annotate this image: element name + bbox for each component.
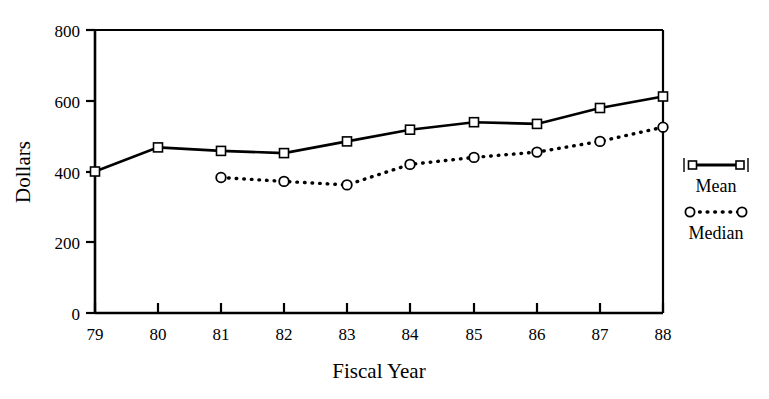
x-axis-ticks: [95, 303, 663, 313]
x-axis-tick-labels: 79 80 81 82 83 84 85 86 87 88: [87, 325, 672, 344]
median-point-marker: [658, 122, 668, 132]
y-tick-label: 800: [55, 22, 81, 41]
y-tick-label: 0: [72, 305, 81, 324]
mean-point-marker: [533, 119, 542, 128]
x-tick-label: 82: [276, 325, 293, 344]
median-point-marker: [469, 153, 479, 163]
median-point-marker: [405, 160, 415, 170]
mean-point-marker: [91, 167, 100, 176]
mean-line: [95, 97, 663, 172]
legend-median-marker: [685, 207, 694, 216]
y-axis-title: Dollars: [11, 141, 35, 203]
legend-item-median: Median: [685, 207, 746, 243]
legend-item-mean: Mean: [684, 158, 748, 196]
mean-point-marker: [343, 137, 352, 146]
plot-frame: [95, 30, 663, 313]
median-point-marker: [532, 147, 542, 157]
x-tick-label: 80: [150, 325, 167, 344]
legend-label-mean: Mean: [696, 176, 737, 196]
x-axis-title: Fiscal Year: [332, 359, 425, 383]
series-mean: [91, 92, 668, 176]
x-tick-label: 81: [213, 325, 230, 344]
mean-point-marker: [470, 118, 479, 127]
line-chart-svg: 800 600 400 200 0 79 80 81 82 83 84: [0, 0, 769, 399]
x-tick-label: 87: [592, 325, 610, 344]
legend-mean-marker: [736, 161, 744, 169]
y-tick-label: 200: [55, 234, 81, 253]
x-tick-label: 84: [402, 325, 420, 344]
mean-point-marker: [280, 149, 289, 158]
mean-markers: [91, 92, 668, 176]
chart-figure: 800 600 400 200 0 79 80 81 82 83 84: [0, 0, 769, 399]
mean-point-marker: [154, 143, 163, 152]
legend-median-marker: [737, 207, 746, 216]
x-tick-label: 88: [655, 325, 672, 344]
median-point-marker: [342, 180, 352, 190]
mean-point-marker: [596, 104, 605, 113]
median-point-marker: [595, 137, 605, 147]
y-axis-tick-labels: 800 600 400 200 0: [55, 22, 81, 324]
x-tick-label: 83: [339, 325, 356, 344]
median-point-marker: [216, 173, 226, 183]
x-tick-label: 86: [529, 325, 546, 344]
mean-point-marker: [406, 125, 415, 134]
chart-legend: Mean Median: [684, 158, 748, 243]
y-tick-label: 400: [55, 164, 81, 183]
median-point-marker: [279, 177, 289, 187]
x-tick-label: 79: [87, 325, 104, 344]
mean-point-marker: [659, 92, 668, 101]
y-tick-label: 600: [55, 93, 81, 112]
legend-label-median: Median: [689, 223, 744, 243]
x-tick-label: 85: [466, 325, 483, 344]
legend-mean-marker: [689, 161, 697, 169]
mean-point-marker: [217, 146, 226, 155]
